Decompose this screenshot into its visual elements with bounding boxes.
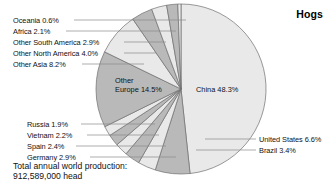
total-production-note: Total annual world production: 912,589,0…	[13, 161, 127, 181]
slice-label-other-asia-8-2: Other Asia 8.2%	[13, 60, 66, 69]
slice-label-russia-1-9: Russia 1.9%	[27, 120, 68, 129]
slice-label-africa-2-1: Africa 2.1%	[13, 27, 50, 36]
slice-label-spain-2-4: Spain 2.4%	[27, 142, 64, 151]
slice-label-brazil-3-4: Brazil 3.4%	[259, 146, 296, 155]
inside-slice-label-other: Other	[115, 76, 133, 85]
inside-slice-label-china-48-3: China 48.3%	[196, 85, 238, 94]
total-production-line2: 912,589,000 head	[13, 171, 127, 181]
slice-label-oceania-0-6: Oceania 0.6%	[13, 16, 59, 25]
slice-label-other-north-america-4-0: Other North America 4.0%	[13, 49, 98, 58]
chart-title: Hogs	[296, 8, 323, 20]
inside-slice-label-europe-14-5: Europe 14.5%	[115, 85, 162, 94]
slice-label-other-south-america-2-9: Other South America 2.9%	[13, 38, 99, 47]
total-production-line1: Total annual world production:	[13, 161, 127, 171]
slice-label-united-states-6-6: United States 6.6%	[259, 135, 321, 144]
slice-label-vietnam-2-2: Vietnam 2.2%	[27, 131, 72, 140]
pie-chart-figure: Hogs Oceania 0.6%Africa 2.1%Other South …	[0, 0, 335, 181]
